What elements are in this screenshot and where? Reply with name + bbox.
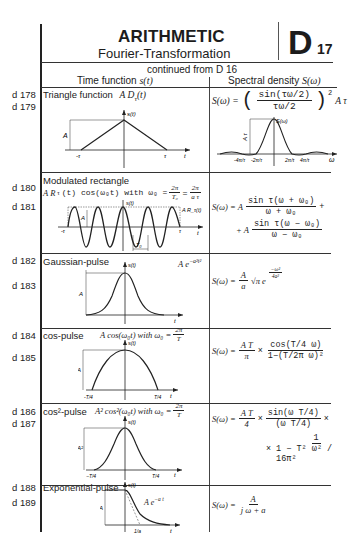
fraction-den: ω − ω₀ — [270, 230, 305, 240]
svg-text:s(t): s(t) — [128, 419, 136, 425]
fraction-num: A T — [239, 340, 255, 351]
spectral-tail: A τ — [335, 96, 346, 106]
svg-text:t: t — [197, 230, 199, 236]
svg-text:s(t): s(t) — [128, 262, 136, 268]
fraction-den: ω + ω₀ — [264, 207, 299, 217]
equals-sign: = — [182, 188, 187, 198]
left-margin-rule — [40, 24, 42, 532]
section-code: D 17 — [288, 25, 333, 59]
svg-text:T/4: T/4 — [152, 473, 159, 479]
column-header-spectral-label: Spectral density — [228, 75, 302, 86]
spectral-fraction: sin τ(ω − ω₀)ω − ω₀ — [252, 219, 322, 240]
times-sign: × — [258, 414, 263, 424]
svg-text:τ: τ — [179, 228, 182, 234]
continued-note: continued from D 16 — [147, 64, 237, 75]
spectral-line-2: × 11 − T² ω² / 16π² — [266, 433, 358, 464]
svg-text:-2π/τ: -2π/τ — [251, 157, 263, 163]
cos2-pulse-spectral: S(ω) = A T4 × sin(ω T/4)(ω T/4) × × 11 −… — [212, 408, 358, 464]
triangle-title: Triangle function A Dτ(t) — [43, 89, 146, 103]
spectral-lhs: S(ω) = — [212, 276, 236, 286]
svg-text:t: t — [184, 153, 186, 159]
main-fraction: sin(ω T/4)(ω T/4) — [266, 408, 321, 429]
spectral-lhs: S(ω) = — [212, 414, 236, 424]
expr-main: A e — [144, 498, 154, 507]
square-exp: 2 — [328, 89, 332, 97]
expr-sub: τ — [57, 190, 59, 196]
spectral-line-1: S(ω) = A T4 × sin(ω T/4)(ω T/4) × — [212, 408, 358, 429]
gaussian-graph: A s(t) t — [78, 260, 188, 326]
spectral-fraction: sin(τω/2)τω/2 — [257, 89, 312, 112]
svg-text:s(t): s(t) — [128, 340, 136, 346]
svg-text:t: t — [170, 393, 172, 399]
svg-text:A²: A² — [78, 445, 84, 451]
expr-main: A R — [43, 188, 55, 198]
column-header-spectral-symbol: S(ω) — [302, 75, 321, 86]
fraction-num: sin(ω T/4) — [266, 408, 321, 419]
spectral-lhs: S(ω) = A — [212, 202, 243, 212]
fraction-num: 2π — [173, 402, 184, 411]
spectral-line-1: S(ω) = A sin τ(ω + ω₀)ω + ω₀ + — [212, 196, 324, 217]
page-subtitle: Fourier-Transformation — [98, 46, 230, 61]
svg-text:A: A — [78, 367, 81, 373]
fraction-num: 2π — [173, 326, 184, 335]
row-label: d 181 — [12, 201, 36, 212]
fraction-den: j ω + a — [239, 505, 268, 515]
triangle-spectral: S(ω) = ( sin(τω/2)τω/2 )2 A τ — [212, 89, 347, 112]
expr-main: A D — [120, 90, 135, 100]
fraction-den: 4 — [243, 419, 251, 429]
column-divider — [209, 77, 210, 532]
svg-text:s(t): s(t) — [126, 200, 134, 206]
svg-text:t: t — [174, 472, 176, 478]
row-separator — [41, 172, 331, 173]
spectral-line-2: + A sin τ(ω − ω₀)ω − ω₀ — [236, 219, 324, 240]
svg-text:A R_τ(t): A R_τ(t) — [181, 207, 201, 213]
svg-text:ω: ω — [329, 156, 335, 163]
function-expr: A Dτ(t) — [120, 90, 146, 100]
spectral-lhs: S(ω) = — [212, 96, 239, 106]
section-number: 17 — [317, 41, 333, 57]
svg-text:T₀: T₀ — [136, 242, 142, 248]
times-sign: × — [324, 414, 329, 424]
fraction-num: cos(T/4 ω) — [268, 340, 323, 351]
exponential-graph: A s(t) 1/a t — [100, 482, 185, 534]
row-separator — [41, 253, 331, 254]
column-header-spectral: Spectral density S(ω) — [228, 75, 321, 86]
modulated-expr: A Rτ (t) cos(ω₀t) with ω₀ = 2πT₀ = 2πa τ — [43, 184, 201, 201]
header-rule — [41, 62, 333, 63]
fraction-num: A T — [239, 408, 255, 419]
modulated-graph: A T₀ s(t) A R_τ(t) -τ τ t — [55, 200, 205, 253]
times-sign: × — [266, 444, 271, 454]
fraction-den: τω/2 — [271, 101, 298, 112]
exponential-spectral: S(ω) = Aj ω + a — [212, 494, 268, 515]
sqrt-pi: √π e — [251, 276, 266, 286]
gaussian-spectral: S(ω) = Aa √π e −ω²4a² — [212, 270, 282, 291]
fraction-num: 2π — [190, 184, 201, 193]
line2-fraction: 11 − T² ω² / 16π² — [274, 433, 358, 464]
fraction-num: sin τ(ω − ω₀) — [252, 219, 322, 230]
svg-text:A τ: A τ — [242, 133, 248, 142]
row-label: d 188 — [12, 482, 36, 493]
column-header-time-label: Time function — [77, 75, 139, 86]
coef-fraction: A T4 — [239, 408, 255, 429]
spectral-fraction: Aj ω + a — [239, 494, 268, 515]
svg-text:s(t): s(t) — [127, 111, 136, 117]
row-separator — [41, 87, 337, 88]
paren-close: ) — [315, 89, 327, 112]
expr-arg: (t) cos(ω₀t) with ω₀ = — [62, 188, 168, 197]
cos2-pulse-graph: A² s(t) −T/4 T/4 t — [78, 414, 193, 484]
spectral-fraction: Aa — [239, 270, 248, 291]
row-label: d 178 — [12, 89, 36, 100]
fraction-num: 1 — [312, 433, 321, 444]
function-name: Triangle function — [43, 89, 113, 100]
fraction-num: sin τ(ω + ω₀) — [246, 196, 316, 207]
column-header-time-symbol: s(t) — [139, 75, 152, 86]
fraction-den: 1−(T/2π ω)² — [266, 351, 326, 361]
svg-text:t: t — [170, 528, 172, 534]
times-sign: × — [258, 346, 263, 356]
row-separator — [41, 328, 331, 329]
row-label: d 180 — [12, 182, 36, 193]
row-label: d 189 — [12, 497, 36, 508]
row-label: d 186 — [12, 406, 36, 417]
spectral-lhs: S(ω) = — [212, 500, 236, 510]
row-label: d 179 — [12, 101, 36, 112]
